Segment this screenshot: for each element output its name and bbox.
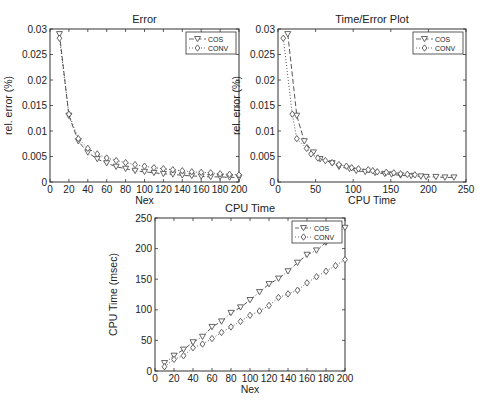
x-tick-label: 20 [168, 373, 180, 384]
x-tick-label: 140 [174, 184, 191, 195]
y-tick-label: 0.005 [250, 151, 275, 162]
x-tick-label: 200 [420, 184, 437, 195]
x-tick-label: 160 [299, 373, 316, 384]
legend-label: CONV [208, 45, 229, 52]
y-tick-label: 0 [269, 177, 275, 188]
y-tick-label: 150 [135, 274, 152, 285]
legend: COSCONV [292, 221, 342, 243]
chart-title: Time/Error Plot [335, 13, 409, 25]
y-axis-label: CPU Time (msec) [107, 253, 119, 336]
y-tick-label: 0.015 [250, 100, 275, 111]
x-tick-label: 80 [120, 184, 132, 195]
figure: 02040608010012014016018020000.0050.010.0… [0, 0, 485, 402]
time-error-chart: 05010015020025000.0050.010.0150.020.0250… [230, 13, 475, 206]
x-tick-label: 0 [152, 373, 158, 384]
y-tick-label: 0.03 [256, 24, 276, 35]
x-axis-label: Nex [135, 194, 154, 206]
y-tick-label: 0.02 [28, 75, 48, 86]
cpu-time-chart: 0204060801001201401601802000501001502002… [107, 202, 354, 395]
legend: COSCONV [186, 32, 236, 54]
x-tick-label: 60 [101, 184, 113, 195]
error-chart: 02040608010012014016018020000.0050.010.0… [2, 13, 248, 206]
x-tick-label: 80 [225, 373, 237, 384]
y-tick-label: 0.01 [256, 126, 276, 137]
y-axis-label: rel. error (%) [230, 76, 242, 135]
x-tick-label: 50 [310, 184, 322, 195]
x-tick-label: 250 [458, 184, 475, 195]
y-axis-label: rel. error (%) [2, 76, 14, 135]
y-tick-label: 0.015 [22, 100, 47, 111]
y-tick-label: 0.005 [22, 151, 47, 162]
x-axis-label: Nex [241, 383, 260, 395]
legend-label: CONV [314, 234, 335, 241]
y-tick-label: 0.025 [22, 49, 47, 60]
chart-title: Error [132, 13, 157, 25]
y-tick-label: 0.025 [250, 49, 275, 60]
y-tick-label: 100 [135, 304, 152, 315]
x-tick-label: 160 [193, 184, 210, 195]
x-tick-label: 40 [187, 373, 199, 384]
legend-label: CONV [435, 45, 456, 52]
x-axis-label: CPU Time [348, 194, 396, 206]
y-tick-label: 50 [141, 335, 153, 346]
y-tick-label: 0.01 [28, 126, 48, 137]
x-tick-label: 0 [275, 184, 281, 195]
x-tick-label: 180 [318, 373, 335, 384]
x-tick-label: 200 [231, 184, 248, 195]
x-tick-label: 140 [280, 373, 297, 384]
y-tick-label: 200 [135, 243, 152, 254]
y-tick-label: 0 [41, 177, 47, 188]
legend-label: COS [314, 225, 330, 232]
x-tick-label: 200 [337, 373, 354, 384]
chart-title: CPU Time [225, 202, 275, 214]
y-tick-label: 0.03 [28, 24, 48, 35]
x-tick-label: 120 [155, 184, 172, 195]
x-tick-label: 40 [82, 184, 94, 195]
x-tick-label: 180 [212, 184, 229, 195]
x-tick-label: 0 [47, 184, 53, 195]
y-tick-label: 250 [135, 213, 152, 224]
y-tick-label: 0 [146, 366, 152, 377]
x-tick-label: 120 [261, 373, 278, 384]
y-tick-label: 0.02 [256, 75, 276, 86]
x-tick-label: 20 [63, 184, 75, 195]
x-tick-label: 60 [206, 373, 218, 384]
legend: COSCONV [413, 32, 463, 54]
legend-label: COS [208, 36, 224, 43]
legend-label: COS [435, 36, 451, 43]
